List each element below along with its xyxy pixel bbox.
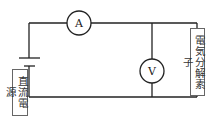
voltmeter: V xyxy=(140,59,164,83)
power-supply-label: 直流電源 xyxy=(12,69,28,116)
ammeter: A xyxy=(67,11,91,35)
voltmeter-symbol: V xyxy=(147,65,157,78)
ammeter-symbol: A xyxy=(74,17,84,30)
electrolysis-element-label: 電気分解素子 xyxy=(190,28,205,96)
